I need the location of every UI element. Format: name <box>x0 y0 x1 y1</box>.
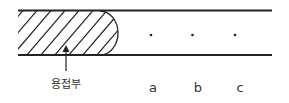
point-c-dot <box>234 34 237 37</box>
weld-label: 용접부 <box>51 78 81 91</box>
point-a-dot <box>150 34 153 37</box>
point-b-label: b <box>194 80 202 95</box>
point-c-label: c <box>236 80 243 95</box>
point-a-label: a <box>149 80 157 95</box>
arrow-up-icon <box>63 45 70 71</box>
weld-diagram: 용접부 a b c <box>0 0 289 103</box>
point-b-dot <box>191 34 194 37</box>
